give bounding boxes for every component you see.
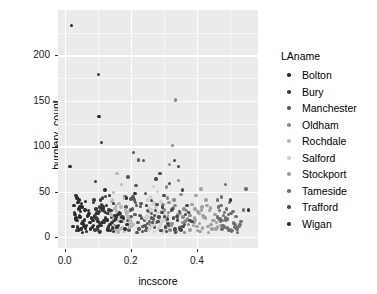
scatter-point [224,183,227,186]
y-tick-label: 100 [20,140,50,151]
scatter-point [205,204,208,207]
scatter-point [171,144,174,147]
scatter-point [122,216,125,219]
scatter-point [218,209,221,212]
legend-dot-icon [287,90,291,94]
legend-items: BoltonBuryManchesterOldhamRochdaleSalfor… [281,67,357,232]
scatter-point [153,230,156,233]
scatter-point [210,227,213,230]
legend-item-rochdale[interactable]: Rochdale [281,133,357,150]
scatter-point [165,185,168,188]
scatter-point [115,172,118,175]
scatter-point [147,229,150,232]
scatter-point [115,225,118,228]
scatter-point [154,177,157,180]
scatter-point [195,225,198,228]
scatter-point [181,225,184,228]
legend-item-label: Trafford [302,201,338,213]
scatter-point [140,216,143,219]
scatter-point [220,227,223,230]
scatter-point [170,208,173,211]
legend-item-bury[interactable]: Bury [281,84,357,101]
scatter-point [104,195,107,198]
scatter-point [135,231,138,234]
scatter-point [183,231,186,234]
scatter-point [208,209,211,212]
scatter-point [153,214,156,217]
scatter-point [192,224,195,227]
scatter-point [234,215,237,218]
scatter-point [70,24,73,27]
legend-dot-icon [287,189,291,193]
legend-item-tameside[interactable]: Tameside [281,183,357,200]
scatter-point [145,214,148,217]
scatter-point [107,225,110,228]
scatter-point [68,165,71,168]
scatter-point [139,205,142,208]
scatter-point [216,198,219,201]
scatter-point [157,215,160,218]
scatter-point [177,165,180,168]
scatter-point [204,216,207,219]
legend-item-bolton[interactable]: Bolton [281,67,357,84]
legend-item-label: Stockport [302,168,346,180]
scatter-point [94,180,97,183]
scatter-point [197,212,200,215]
plot-panel [58,10,258,248]
scatter-point [97,73,100,76]
gridline-minor-horizontal [58,78,258,79]
legend-item-manchester[interactable]: Manchester [281,100,357,117]
chart-root: burglary_count incscore 050100150200 0.0… [0,0,377,294]
legend-title: LAname [281,50,357,62]
scatter-point [95,217,98,220]
scatter-point [181,188,184,191]
scatter-point [155,203,158,206]
scatter-point [131,195,134,198]
scatter-point [83,218,86,221]
scatter-point [227,213,230,216]
scatter-point [201,226,204,229]
x-axis-title: incscore [58,275,258,287]
scatter-point [142,159,145,162]
scatter-point [236,231,239,234]
legend-key-swatch [281,199,297,215]
scatter-point [244,187,247,190]
scatter-point [92,198,95,201]
legend-key-swatch [281,216,297,232]
scatter-point [152,185,155,188]
legend-item-label: Tameside [302,185,347,197]
legend-key-swatch [281,100,297,116]
scatter-point [170,222,173,225]
gridline-minor-horizontal [58,124,258,125]
scatter-point [112,230,115,233]
scatter-point [160,211,163,214]
legend-item-stockport[interactable]: Stockport [281,166,357,183]
x-tick-label: 0.2 [116,255,146,266]
scatter-point [166,196,169,199]
scatter-point [71,225,74,228]
legend-item-trafford[interactable]: Trafford [281,199,357,216]
scatter-point [112,191,115,194]
scatter-point [190,220,193,223]
scatter-point [214,227,217,230]
scatter-point [135,204,138,207]
scatter-point [103,188,106,191]
legend-dot-icon [287,139,291,143]
gridline-major-horizontal [58,55,258,56]
scatter-point [172,216,175,219]
legend-item-salford[interactable]: Salford [281,150,357,167]
scatter-point [204,198,207,201]
gridline-major-horizontal [58,146,258,147]
scatter-point [173,159,176,162]
gridline-major-vertical [65,10,66,248]
scatter-point [129,225,132,228]
scatter-point [133,192,136,195]
scatter-point [75,196,78,199]
scatter-point [158,172,161,175]
scatter-point [99,224,102,227]
gridline-minor-horizontal [58,169,258,170]
scatter-point [162,194,165,197]
scatter-point [146,198,149,201]
legend-item-wigan[interactable]: Wigan [281,216,357,233]
legend-item-oldham[interactable]: Oldham [281,117,357,134]
